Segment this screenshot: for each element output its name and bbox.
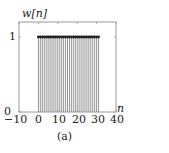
figure-caption: (a) bbox=[57, 131, 72, 142]
x-tick-label-neg10: −10 bbox=[4, 114, 27, 125]
x-tick-label-20: 20 bbox=[72, 114, 86, 125]
x-tick-label-10: 10 bbox=[52, 114, 66, 125]
y-axis-label: w[n] bbox=[22, 8, 47, 19]
x-tick-label-30: 30 bbox=[91, 114, 105, 125]
x-tick-label-0: 0 bbox=[35, 114, 42, 125]
x-tick-label-40: 40 bbox=[110, 114, 124, 125]
stem-marker bbox=[97, 36, 100, 39]
stem-plot bbox=[0, 0, 169, 153]
y-tick-label-1: 1 bbox=[9, 31, 16, 42]
